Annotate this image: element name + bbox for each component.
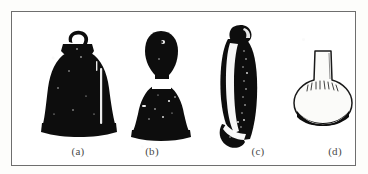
flask-outline xyxy=(294,51,352,125)
bell-with-bulbous-handle-icon xyxy=(125,29,197,142)
panel-label-a: (a) xyxy=(60,145,96,157)
specimen-c xyxy=(208,21,270,151)
bell-with-loop-handle-icon xyxy=(36,26,122,142)
elongated-bell-profile-icon xyxy=(208,21,270,151)
figure-border: (a) (b) (c) (d) xyxy=(11,11,356,166)
panel-label-c: (c) xyxy=(240,145,276,157)
specimen-b xyxy=(125,29,197,142)
specimen-a xyxy=(36,26,122,142)
specimen-d xyxy=(288,47,358,133)
narrow-neck-flask-icon xyxy=(288,47,358,133)
figure-plate: (a) (b) (c) (d) xyxy=(0,0,368,174)
panel-label-b: (b) xyxy=(134,145,170,157)
panel-label-d: (d) xyxy=(317,145,353,157)
